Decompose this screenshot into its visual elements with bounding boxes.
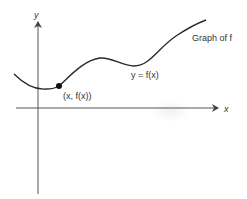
point-label: (x, f(x)) xyxy=(63,91,92,101)
graph-caption: Graph of f xyxy=(192,33,233,43)
equation-label: y = f(x) xyxy=(131,70,159,80)
function-graph: y x (x, f(x)) y = f(x) Graph of f xyxy=(0,0,247,199)
point-marker xyxy=(56,83,62,89)
y-axis-label: y xyxy=(33,10,39,20)
graph-curve xyxy=(14,20,206,89)
x-axis-label: x xyxy=(223,104,229,114)
